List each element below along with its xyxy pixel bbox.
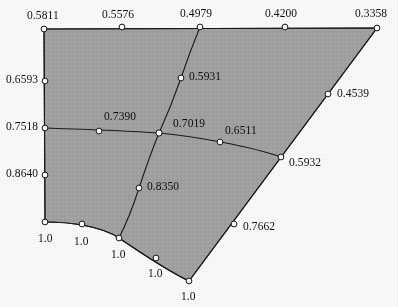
node-marker xyxy=(116,235,122,241)
node-label-20: 1.0 xyxy=(181,291,196,303)
node-marker xyxy=(42,219,48,225)
node-marker xyxy=(186,278,192,284)
node-label-10: 0.7019 xyxy=(173,118,205,130)
node-marker xyxy=(178,75,184,81)
node-marker xyxy=(156,130,162,136)
node-marker xyxy=(217,139,223,145)
node-marker xyxy=(282,24,288,30)
node-label-3: 0.4200 xyxy=(265,8,297,20)
node-marker xyxy=(42,125,48,131)
node-label-13: 0.8640 xyxy=(6,168,38,180)
node-marker xyxy=(79,221,85,227)
node-label-11: 0.6511 xyxy=(225,125,257,137)
node-label-0: 0.5811 xyxy=(27,10,59,22)
node-marker xyxy=(325,91,331,97)
node-label-5: 0.6593 xyxy=(6,74,38,86)
node-label-6: 0.4539 xyxy=(337,88,369,100)
node-marker xyxy=(119,24,125,30)
node-label-19: 1.0 xyxy=(148,268,163,280)
node-label-15: 0.7662 xyxy=(243,221,275,233)
domain-region xyxy=(44,28,377,281)
node-marker xyxy=(42,172,48,178)
node-marker xyxy=(42,78,48,84)
node-label-17: 1.0 xyxy=(74,236,89,248)
node-label-7: 0.5931 xyxy=(189,71,221,83)
node-label-12: 0.5932 xyxy=(289,157,321,169)
node-marker xyxy=(197,24,203,30)
node-label-18: 1.0 xyxy=(111,249,126,261)
node-marker xyxy=(231,221,237,227)
node-label-8: 0.7518 xyxy=(6,121,38,133)
node-label-2: 0.4979 xyxy=(180,8,212,20)
node-marker xyxy=(41,26,47,32)
node-marker xyxy=(278,154,284,160)
node-label-9: 0.7390 xyxy=(104,111,136,123)
node-marker xyxy=(136,185,142,191)
node-label-16: 1.0 xyxy=(38,233,53,245)
mesh-diagram xyxy=(0,0,398,307)
mesh-figure: 0.5811 0.5576 0.4979 0.4200 0.3358 0.659… xyxy=(0,0,398,307)
node-label-14: 0.8350 xyxy=(147,181,179,193)
node-label-1: 0.5576 xyxy=(102,9,134,21)
node-label-4: 0.3358 xyxy=(355,8,387,20)
node-marker xyxy=(374,25,380,31)
node-marker xyxy=(153,255,159,261)
node-marker xyxy=(96,128,102,134)
